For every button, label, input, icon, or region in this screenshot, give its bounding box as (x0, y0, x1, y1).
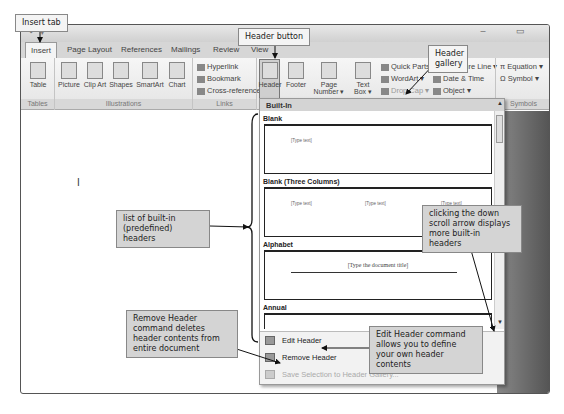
callout-header-gallery: Header gallery (428, 45, 468, 73)
callout-header-button: Header button (238, 28, 310, 46)
callout-remove-header: Remove Header command deletes header con… (126, 310, 238, 358)
callout-insert-tab: Insert tab (15, 14, 68, 32)
callout-builtin-list: list of built-in (predefined) headers (116, 210, 210, 248)
callout-scroll-arrow: clicking the down scroll arrow displays … (422, 205, 522, 253)
callout-edit-header: Edit Header command allows you to define… (369, 326, 483, 374)
